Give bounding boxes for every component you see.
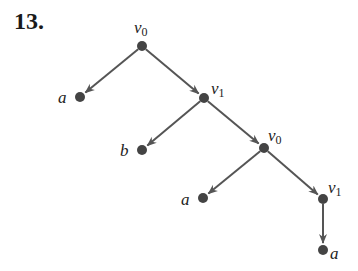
node-label: a	[330, 244, 339, 263]
tree-node	[137, 41, 147, 51]
node-label: a	[58, 88, 67, 107]
directed-tree-diagram: v0av1bv0av1a	[0, 0, 358, 271]
tree-node	[318, 194, 328, 204]
node-label: a	[181, 190, 190, 209]
edge-arrow	[208, 151, 260, 193]
tree-node	[199, 93, 209, 103]
edge-arrow	[146, 49, 199, 93]
node-label: v0	[268, 126, 282, 147]
node-label: v1	[328, 178, 342, 199]
tree-node	[137, 145, 147, 155]
labels-group: v0av1bv0av1a	[58, 18, 342, 263]
tree-node	[75, 92, 85, 102]
edge-arrow	[208, 101, 259, 143]
edge-arrow	[147, 101, 200, 145]
nodes-group	[75, 41, 328, 255]
edge-arrow	[85, 49, 138, 92]
edge-arrow	[268, 151, 318, 194]
tree-node	[318, 245, 328, 255]
node-label: v1	[211, 79, 225, 100]
node-label: b	[120, 141, 129, 160]
tree-node	[198, 193, 208, 203]
node-label: v0	[134, 18, 148, 39]
